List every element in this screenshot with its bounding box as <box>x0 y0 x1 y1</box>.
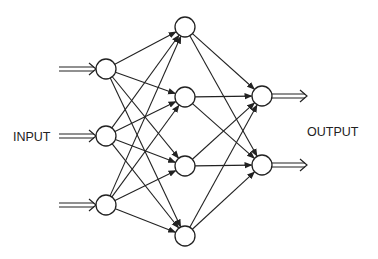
connection-edge <box>115 32 176 64</box>
neural-network-diagram: INPUT OUTPUT <box>0 0 378 259</box>
input-node <box>96 126 116 146</box>
connections <box>110 32 257 232</box>
hidden-node <box>175 156 195 176</box>
connection-edge <box>112 36 179 128</box>
hidden-node <box>175 226 195 246</box>
output-arrow <box>272 159 307 171</box>
output-node <box>252 86 272 106</box>
output-node <box>252 155 272 175</box>
connection-edge <box>115 72 175 93</box>
connection-edge <box>192 172 254 229</box>
output-arrow <box>272 90 307 102</box>
hidden-node <box>175 87 195 107</box>
connection-edge <box>110 78 180 226</box>
connection-edge <box>192 34 254 89</box>
input-arrow <box>59 130 96 142</box>
input-label: INPUT <box>13 130 51 144</box>
connection-edge <box>112 105 179 196</box>
input-arrow <box>59 199 96 211</box>
connection-edge <box>195 96 252 97</box>
input-arrow <box>59 63 96 75</box>
hidden-node <box>175 17 195 37</box>
output-label: OUTPUT <box>307 125 359 139</box>
input-node <box>96 59 116 79</box>
input-node <box>96 195 116 215</box>
